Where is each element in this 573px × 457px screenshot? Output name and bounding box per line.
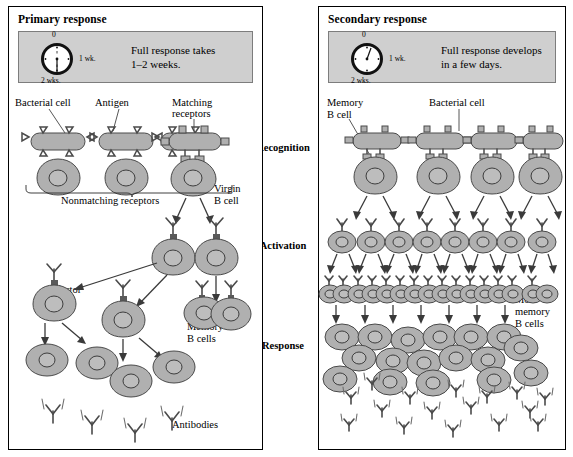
b-cell-virgin xyxy=(171,150,216,196)
antibody xyxy=(374,400,390,417)
memory-pair-row xyxy=(319,276,558,303)
antibody xyxy=(530,414,546,431)
recognition-complex-4 xyxy=(515,126,563,194)
activated-b-cell-4 xyxy=(413,219,441,253)
plasma-cell xyxy=(323,366,357,392)
b-cell-nonmatching-2 xyxy=(105,159,148,195)
memory-pair-8 xyxy=(522,276,558,303)
antibody xyxy=(445,420,461,437)
activated-b-cell-8 xyxy=(528,219,556,253)
antibody xyxy=(424,402,440,419)
b-cell-activated-2 xyxy=(195,218,238,275)
activated-b-cell-6 xyxy=(469,219,497,253)
antibody-1 xyxy=(42,399,64,423)
activated-b-cell-3 xyxy=(385,219,413,253)
arrows-recognition-to-activation xyxy=(353,196,562,220)
plasma-cell-4 xyxy=(153,351,195,383)
activated-b-cell-row xyxy=(328,219,556,253)
recognition-complex-3 xyxy=(463,126,525,194)
bacterial-cell-nonmatching-2 xyxy=(90,127,162,156)
antibody-2 xyxy=(81,410,103,434)
bacterial-cell-nonmatching-1 xyxy=(22,127,94,156)
activated-b-cell-5 xyxy=(441,219,469,253)
plasma-cell xyxy=(416,370,450,396)
antibody xyxy=(463,397,479,414)
b-cell-effector-middle xyxy=(102,280,145,337)
plasma-cell-3 xyxy=(110,365,152,397)
antibody xyxy=(537,388,553,405)
antibody xyxy=(396,417,412,434)
plasma-cell xyxy=(373,369,407,395)
activated-b-cell-1 xyxy=(328,219,356,253)
secondary-diagram-graphics xyxy=(319,7,567,451)
memory-pair-7 xyxy=(488,276,524,303)
antibody-3 xyxy=(124,418,146,442)
b-cell-nonmatching-1 xyxy=(37,159,80,195)
recognition-complex-1 xyxy=(345,126,409,194)
plasma-cell xyxy=(477,367,511,393)
b-cell-effector-left xyxy=(33,264,76,321)
memory-b-cells-pair xyxy=(184,281,251,330)
plasma-cell xyxy=(439,345,473,371)
arrows-activation-to-memory xyxy=(327,254,557,274)
arrows-memory-to-response xyxy=(332,305,509,324)
bacterial-cell-matching xyxy=(161,126,229,150)
response-plasma-cells xyxy=(323,324,548,396)
primary-response-panel: Primary response 0 1 wk. 2 wks. Full res… xyxy=(8,6,263,450)
antibody xyxy=(341,414,357,431)
recognition-complex-2 xyxy=(408,126,472,194)
antibody-4 xyxy=(161,406,183,430)
plasma-cell xyxy=(504,335,538,361)
b-cell-activated-1 xyxy=(152,218,195,275)
activated-b-cell-2 xyxy=(357,219,385,253)
antibody xyxy=(491,414,507,431)
activated-b-cell-7 xyxy=(497,219,525,253)
plasma-cell-1 xyxy=(26,344,68,376)
primary-diagram-graphics xyxy=(9,7,264,451)
plasma-cell xyxy=(514,360,548,386)
secondary-response-panel: Secondary response 0 1 wk. 2 wks. Full r… xyxy=(318,6,566,450)
